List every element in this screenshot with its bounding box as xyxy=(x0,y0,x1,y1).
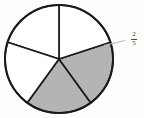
fraction-denominator: 5 xyxy=(127,40,141,47)
fraction-label: 2 5 xyxy=(127,31,141,47)
figure-canvas: 2 5 xyxy=(0,0,144,118)
pie-chart xyxy=(0,0,144,118)
fraction-numerator: 2 xyxy=(127,31,141,38)
